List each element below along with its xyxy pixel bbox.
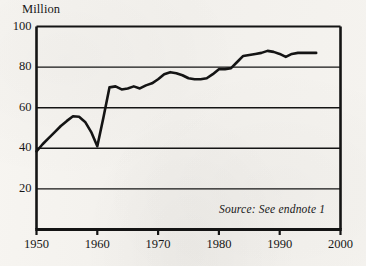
x-tick-label: 1990 (258, 237, 302, 252)
y-tick-label: 40 (2, 140, 32, 155)
x-tick-label: 1950 (15, 237, 59, 252)
source-note: Source: See endnote 1 (219, 203, 325, 215)
x-tick-label: 1980 (197, 237, 241, 252)
x-tick-label: 1970 (136, 237, 180, 252)
data-series-layer (37, 51, 317, 151)
y-tick-label: 100 (2, 19, 32, 34)
chart-figure: Million 20406080100 19501960197019801990… (0, 0, 366, 266)
gridlines (37, 67, 341, 189)
y-tick-label: 20 (2, 181, 32, 196)
plot-area (0, 0, 366, 266)
y-tick-label: 80 (2, 59, 32, 74)
plot-frame (35, 27, 341, 230)
x-tick-label: 2000 (319, 237, 363, 252)
x-tick-label: 1960 (75, 237, 119, 252)
data-line (37, 51, 317, 151)
y-tick-label: 60 (2, 100, 32, 115)
